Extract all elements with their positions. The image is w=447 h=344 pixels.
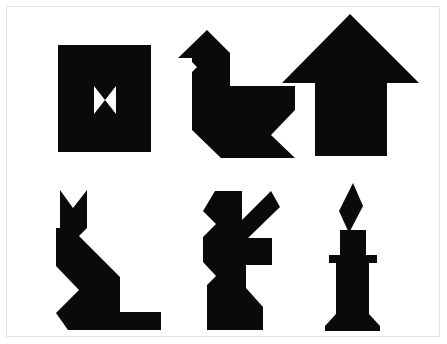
square-bowtie-silhouette bbox=[58, 45, 151, 152]
figure-rabbit bbox=[203, 191, 280, 330]
figure-candle bbox=[325, 183, 380, 331]
tangram-figure-canvas bbox=[0, 0, 447, 344]
candle-flame-silhouette bbox=[339, 183, 363, 233]
tangram-sheet bbox=[0, 0, 447, 344]
figure-arrow-up bbox=[282, 14, 419, 156]
swan-silhouette bbox=[178, 30, 295, 158]
rabbit-silhouette bbox=[203, 191, 280, 330]
figure-swan bbox=[178, 30, 295, 158]
candle-body-silhouette bbox=[325, 230, 380, 331]
arrow-up-silhouette bbox=[282, 14, 419, 156]
figure-square-bowtie bbox=[58, 45, 151, 152]
figure-cat bbox=[56, 190, 161, 330]
cat-silhouette bbox=[56, 190, 161, 330]
